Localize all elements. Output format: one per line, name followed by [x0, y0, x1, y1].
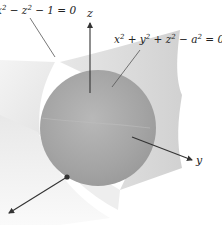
z-axis-label: z — [87, 8, 93, 19]
y-axis-label: y — [196, 155, 202, 166]
cylinder-leader-line — [30, 18, 55, 57]
sphere — [40, 70, 156, 186]
sphere-equation-label: x2 + y2 + z2 − a2 = 0 — [114, 34, 222, 45]
cylinder-equation-label: x2 − z2 − 1 = 0 — [0, 5, 76, 16]
origin-point — [64, 174, 69, 179]
